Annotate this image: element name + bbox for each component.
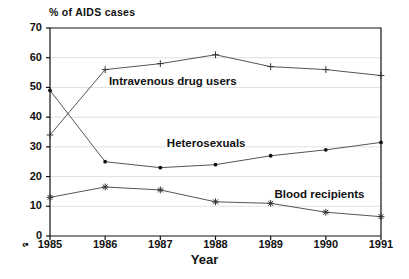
y-tick-label-40: 40: [16, 110, 42, 122]
data-point-heterosexuals-1985: [48, 89, 52, 93]
y-tick-label-60: 60: [16, 51, 42, 63]
x-axis-title: Year: [0, 252, 409, 267]
y-tick-label-10: 10: [16, 199, 42, 211]
x-tick-label-1985: 1985: [22, 238, 78, 250]
data-point-heterosexuals-1987: [158, 166, 162, 170]
x-tick-label-1986: 1986: [77, 238, 133, 250]
x-tick-label-1987: 1987: [132, 238, 188, 250]
series-heterosexuals: [48, 89, 383, 170]
y-tick-label-20: 20: [16, 170, 42, 182]
y-tick-label-50: 50: [16, 80, 42, 92]
x-tick-label-1989: 1989: [243, 238, 299, 250]
data-point-heterosexuals-1986: [103, 160, 107, 164]
data-point-heterosexuals-1988: [214, 163, 218, 167]
series-line-intravenous-drug-users: [50, 55, 381, 135]
data-point-heterosexuals-1989: [269, 154, 273, 158]
data-point-heterosexuals-1991: [379, 141, 383, 145]
data-point-heterosexuals-1990: [324, 148, 328, 152]
series-line-heterosexuals: [50, 90, 381, 167]
x-tick-label-1990: 1990: [298, 238, 354, 250]
aids-cases-line-chart: % of AIDS cases 010203040506070 19851986…: [0, 0, 409, 279]
x-tick-label-1991: 1991: [353, 238, 409, 250]
y-tick-label-70: 70: [16, 21, 42, 33]
series-label-blood-recipients: Blood recipients: [273, 188, 365, 200]
series-intravenous-drug-users: [47, 51, 385, 138]
series-label-intravenous-drug-users: Intravenous drug users: [108, 75, 238, 87]
y-tick-label-30: 30: [16, 140, 42, 152]
origin-marker: ‹•: [22, 238, 28, 250]
x-tick-label-1988: 1988: [188, 238, 244, 250]
series-label-heterosexuals: Heterosexuals: [166, 137, 247, 149]
